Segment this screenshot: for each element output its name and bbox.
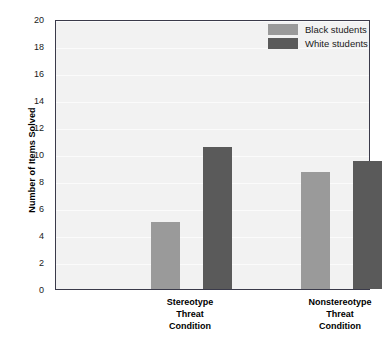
bar: [353, 161, 382, 289]
x-axis-tick-label-line: Threat: [167, 308, 214, 320]
legend-label: White students: [305, 38, 368, 49]
y-axis-tick-label: 12: [34, 124, 44, 133]
y-axis-tick-label: 16: [34, 70, 44, 79]
y-axis-tick-label: 4: [39, 232, 44, 241]
y-axis-tick-labels: 02468101214161820: [0, 20, 50, 290]
legend-entry: White students: [268, 38, 368, 49]
x-axis-tick-label-line: Condition: [167, 320, 214, 332]
y-axis-tick-label: 14: [34, 97, 44, 106]
x-axis-tick-label-line: Threat: [308, 308, 371, 320]
x-axis-tick-label-line: Condition: [308, 320, 371, 332]
y-axis-tick-label: 0: [39, 286, 44, 295]
y-axis-tick-label: 20: [34, 16, 44, 25]
legend-label: Black students: [305, 24, 367, 35]
legend-entry: Black students: [268, 24, 368, 35]
bar: [151, 222, 180, 290]
y-axis-tick-label: 18: [34, 43, 44, 52]
y-axis-tick-label: 6: [39, 205, 44, 214]
legend-swatch-icon: [268, 24, 298, 35]
y-axis-tick-label: 10: [34, 151, 44, 160]
x-axis-tick-label: NonstereotypeThreatCondition: [308, 296, 371, 332]
bar: [301, 172, 330, 289]
x-axis-tick-label: StereotypeThreatCondition: [167, 296, 214, 332]
chart-legend: Black studentsWhite students: [268, 24, 368, 49]
bar-chart-figure: Number of Items Solved 02468101214161820…: [0, 0, 386, 359]
y-axis-tick-label: 8: [39, 178, 44, 187]
x-axis-tick-label-line: Nonstereotype: [308, 296, 371, 308]
x-axis-tick-labels: StereotypeThreatConditionNonstereotypeTh…: [55, 296, 370, 346]
legend-swatch-icon: [268, 38, 298, 49]
x-axis-tick-label-line: Stereotype: [167, 296, 214, 308]
bars-layer: [56, 21, 369, 289]
y-axis-tick-label: 2: [39, 259, 44, 268]
plot-area: [55, 20, 370, 290]
bar: [203, 147, 232, 289]
